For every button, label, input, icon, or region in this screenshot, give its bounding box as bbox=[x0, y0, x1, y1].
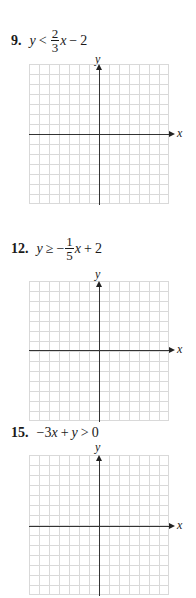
numerator: 2 bbox=[51, 27, 60, 41]
x-axis-arrow-icon bbox=[169, 347, 175, 353]
numerator: 1 bbox=[65, 235, 74, 249]
y-axis-arrow-icon bbox=[96, 64, 102, 70]
y-axis-label: y bbox=[95, 440, 100, 455]
x-axis-label: x bbox=[177, 126, 182, 141]
problem-number: 15. bbox=[11, 425, 29, 441]
denominator: 3 bbox=[51, 41, 60, 54]
x-axis-label: x bbox=[177, 342, 182, 357]
problem-9-label: 9. y < 2 3 x − 2 bbox=[11, 27, 87, 54]
denominator: 5 bbox=[65, 249, 74, 262]
x-axis-label: x bbox=[177, 518, 182, 533]
x-axis-arrow-icon bbox=[169, 131, 175, 137]
constant: 2 bbox=[80, 33, 87, 49]
y-axis-arrow-icon bbox=[96, 281, 102, 287]
fraction: 2 3 bbox=[51, 27, 60, 54]
x-axis bbox=[29, 526, 170, 527]
y-axis-arrow-icon bbox=[96, 455, 102, 461]
inequality: y < 2 3 x − 2 bbox=[30, 27, 88, 54]
problem-number: 9. bbox=[11, 33, 22, 49]
x-axis-arrow-icon bbox=[169, 523, 175, 529]
y-axis bbox=[99, 285, 100, 422]
constant: 2 bbox=[95, 241, 102, 257]
x-axis bbox=[29, 350, 170, 351]
x-axis bbox=[29, 134, 170, 135]
relation-symbol: > bbox=[81, 425, 89, 441]
inequality: −3 x + y > 0 bbox=[37, 425, 99, 441]
x-variable: x bbox=[51, 425, 57, 441]
negative-sign: − bbox=[56, 241, 64, 257]
problem-12-label: 12. y ≥ − 1 5 x + 2 bbox=[11, 235, 102, 262]
lhs-variable: y bbox=[37, 241, 43, 257]
operator: + bbox=[61, 425, 69, 441]
y-axis bbox=[99, 459, 100, 596]
x-variable: x bbox=[60, 33, 66, 49]
lhs-variable: y bbox=[30, 33, 36, 49]
y-axis-label: y bbox=[95, 267, 100, 282]
coefficient: −3 bbox=[37, 425, 52, 441]
constant: 0 bbox=[92, 425, 99, 441]
y-axis bbox=[99, 68, 100, 205]
fraction: 1 5 bbox=[65, 235, 74, 262]
relation-symbol: ≥ bbox=[46, 241, 54, 257]
problem-number: 12. bbox=[11, 241, 29, 257]
operator: − bbox=[69, 33, 77, 49]
operator: + bbox=[84, 241, 92, 257]
relation-symbol: < bbox=[39, 33, 47, 49]
y-variable: y bbox=[72, 425, 78, 441]
problem-15-label: 15. −3 x + y > 0 bbox=[11, 425, 99, 441]
inequality: y ≥ − 1 5 x + 2 bbox=[37, 235, 102, 262]
x-variable: x bbox=[75, 241, 81, 257]
